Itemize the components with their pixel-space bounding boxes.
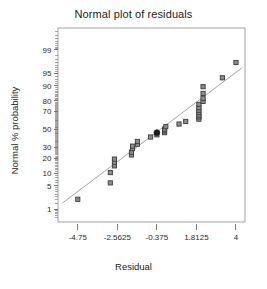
x-axis-tick-labels: -4.75-2.5625-0.3751.81254 [69,233,239,242]
svg-text:90: 90 [43,82,52,91]
svg-text:30: 30 [43,143,52,152]
svg-text:10: 10 [43,169,52,178]
y-axis-title: Normal % probability [9,61,20,201]
y-axis-minor-ticks [55,31,58,218]
normal-probability-plot: Normal plot of residuals 151020305070809… [0,0,267,289]
plot-canvas: 15102030507080909599 -4.75-2.5625-0.3751… [0,0,267,289]
svg-text:99: 99 [43,46,52,55]
svg-text:20: 20 [43,154,52,163]
y-axis-tick-labels: 15102030507080909599 [43,46,52,214]
x-axis-title: Residual [0,261,267,272]
svg-text:95: 95 [43,69,52,78]
svg-text:1: 1 [47,205,52,214]
svg-text:70: 70 [43,107,52,116]
svg-text:-4.75: -4.75 [69,233,88,242]
svg-text:4: 4 [234,233,239,242]
svg-text:50: 50 [43,125,52,134]
svg-text:80: 80 [43,97,52,106]
svg-text:1.8125: 1.8125 [184,233,209,242]
svg-text:-2.5625: -2.5625 [104,233,132,242]
y-axis-major-ticks [54,50,59,209]
svg-text:-0.375: -0.375 [146,233,169,242]
x-axis-major-ticks [78,224,236,230]
svg-text:5: 5 [47,182,52,191]
highlighted-point-marker [154,130,160,136]
plot-frame [58,28,245,222]
